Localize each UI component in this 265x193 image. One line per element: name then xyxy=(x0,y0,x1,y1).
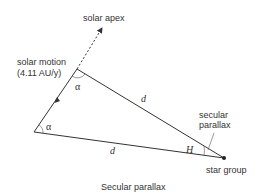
alpha-bottom-label: α xyxy=(46,121,52,132)
bottom-distance-line xyxy=(34,132,224,158)
d-top-label: d xyxy=(141,93,147,104)
solar-motion-label: solar motion xyxy=(17,57,66,67)
alpha-bottom-arc xyxy=(39,125,43,133)
solar-motion-speed-label: (4.11 AU/y) xyxy=(17,68,61,78)
secular-parallax-pointer xyxy=(208,133,214,150)
solar-motion-line xyxy=(34,69,77,132)
star-group-label: star group xyxy=(206,165,247,175)
solar-apex-label: solar apex xyxy=(83,13,125,23)
solar-apex-dashed-line xyxy=(77,28,102,69)
alpha-top-label: α xyxy=(75,81,81,92)
d-bottom-label: d xyxy=(110,145,116,156)
H-label: H xyxy=(185,144,194,155)
secular-parallax-diagram: solar apex solar motion (4.11 AU/y) α α … xyxy=(0,0,265,193)
H-angle-arc xyxy=(204,146,205,155)
alpha-top-arc xyxy=(72,74,85,78)
star-group-dot xyxy=(222,156,226,160)
figure-caption: Secular parallax xyxy=(101,182,166,192)
secular-parallax-label-line1: secular xyxy=(199,110,228,120)
secular-parallax-label-line2: parallax xyxy=(199,120,231,130)
